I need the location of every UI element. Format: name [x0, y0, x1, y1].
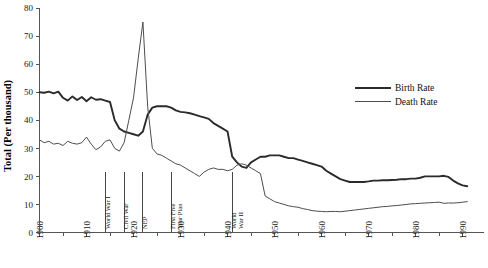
- y-axis-title: Total (Per thousand): [2, 79, 14, 172]
- x-tick-label: 1960: [317, 221, 327, 240]
- x-tick-label: 1910: [82, 221, 92, 240]
- y-axis-ticks: 01020304050607080: [24, 3, 40, 238]
- event-annotation-label: War II: [237, 212, 244, 229]
- y-tick-label: 10: [24, 200, 34, 210]
- x-tick-label: 1970: [364, 221, 374, 240]
- x-tick-label: 1920: [129, 221, 139, 240]
- data-series: [40, 22, 468, 212]
- chart-figure: Total (Per thousand) 01020304050607080 1…: [0, 0, 488, 268]
- y-tick-label: 50: [24, 87, 34, 97]
- y-tick-label: 60: [24, 59, 34, 69]
- y-axis-title-label: Total (Per thousand): [2, 79, 14, 172]
- chart-legend: Birth RateDeath Rate: [355, 83, 437, 107]
- event-annotation-label: Year Plan: [176, 203, 183, 229]
- legend-label-death-rate: Death Rate: [395, 97, 437, 107]
- y-tick-label: 30: [24, 144, 34, 154]
- x-tick-label: 1950: [270, 221, 280, 240]
- series-line-death-rate: [40, 22, 468, 212]
- y-tick-label: 40: [24, 115, 34, 125]
- y-tick-label: 80: [24, 3, 34, 13]
- birth-death-rate-line-chart: Total (Per thousand) 01020304050607080 1…: [0, 0, 488, 268]
- x-tick-label: 1900: [35, 221, 45, 240]
- y-tick-label: 70: [24, 31, 34, 41]
- x-tick-label: 1990: [458, 221, 468, 240]
- x-tick-label: 1980: [411, 221, 421, 240]
- x-axis-ticks: 1900191019201930194019501960197019801990: [35, 221, 468, 240]
- y-tick-label: 0: [29, 228, 34, 238]
- event-annotation-label: World War I: [104, 196, 111, 229]
- legend-label-birth-rate: Birth Rate: [395, 83, 434, 93]
- event-annotation-label: Civil War: [122, 203, 129, 229]
- event-annotation-label: NEP: [141, 216, 148, 229]
- y-tick-label: 20: [24, 172, 34, 182]
